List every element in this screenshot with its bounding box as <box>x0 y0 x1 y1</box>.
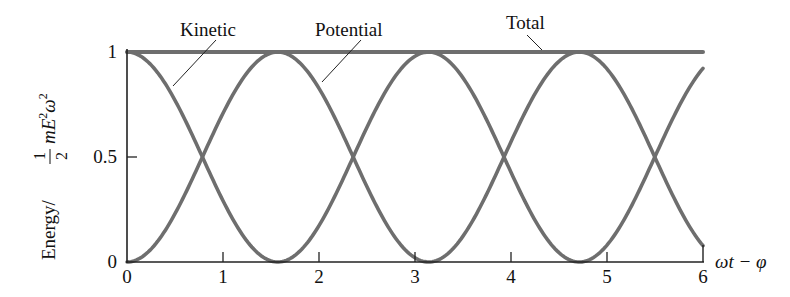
x-tick-label: 4 <box>506 266 516 287</box>
kinetic-leader-line <box>173 40 216 86</box>
kinetic-label: Kinetic <box>180 19 236 40</box>
svg-text:Energy/: Energy/ <box>38 199 59 260</box>
y-tick-label: 0 <box>108 251 118 272</box>
y-title-omega: ω <box>38 99 59 112</box>
energy-chart: 0123456 00.51 Kinetic Potential Total ωt… <box>0 0 790 297</box>
y-title-sup2: 2 <box>36 93 50 99</box>
x-tick-label: 2 <box>314 266 324 287</box>
y-title-mE: mE <box>38 118 59 144</box>
potential-label: Potential <box>315 19 383 40</box>
y-tick-label: 1 <box>108 41 118 62</box>
y-ticks: 00.51 <box>93 41 137 272</box>
x-tick-label: 6 <box>698 266 708 287</box>
y-tick-label: 0.5 <box>93 146 117 167</box>
curves <box>127 52 703 262</box>
total-label: Total <box>506 12 545 33</box>
potential-leader-line <box>322 40 361 82</box>
x-axis-title: ωt − φ <box>715 251 767 272</box>
x-tick-label: 3 <box>410 266 420 287</box>
x-tick-label: 5 <box>602 266 612 287</box>
y-axis-title: Energy/ 1 2 mE2ω2 <box>31 93 70 260</box>
y-title-prefix: Energy/ <box>38 199 59 260</box>
y-title-frac-num: 1 <box>31 152 48 160</box>
svg-text:mE2ω2: mE2ω2 <box>36 93 59 144</box>
x-ticks: 0123456 <box>122 252 708 287</box>
total-leader-line <box>527 35 542 50</box>
y-title-frac-den: 2 <box>53 152 70 160</box>
x-tick-label: 1 <box>218 266 228 287</box>
x-tick-label: 0 <box>122 266 132 287</box>
